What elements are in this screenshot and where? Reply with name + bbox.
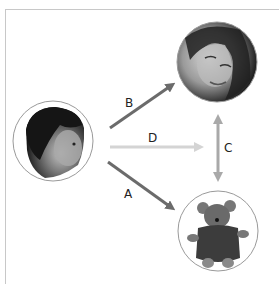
arrow-b (110, 85, 172, 128)
label-c: C (224, 141, 232, 155)
arrow-a (108, 162, 172, 208)
label-a: A (124, 187, 133, 201)
woman-photo (177, 22, 257, 102)
teddy-photo (178, 191, 258, 271)
baby-photo (13, 101, 93, 181)
label-d: D (148, 131, 157, 145)
joint-attention-diagram: B D C A (0, 0, 279, 284)
label-b: B (125, 96, 133, 110)
